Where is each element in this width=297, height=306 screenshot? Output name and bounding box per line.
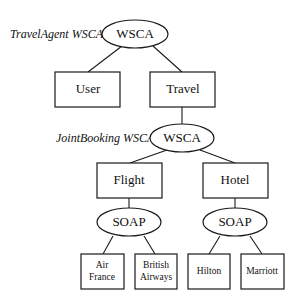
svg-text:SOAP: SOAP — [218, 214, 251, 229]
composition-diagram: TravelAgent WSCA JointBooking WSCA WSCA … — [0, 0, 297, 306]
edge-soap-hilton — [209, 236, 220, 254]
caption-travelagent: TravelAgent WSCA — [10, 27, 104, 41]
node-wsca-mid: WSCA — [150, 124, 214, 152]
svg-text:SOAP: SOAP — [112, 214, 145, 229]
svg-text:Airways: Airways — [140, 272, 172, 282]
edge-wsca-travel — [153, 46, 182, 72]
node-hilton: Hilton — [188, 254, 230, 289]
svg-text:British: British — [143, 260, 169, 270]
node-british-airways: British Airways — [135, 254, 177, 289]
caption-jointbooking: JointBooking WSCA — [56, 131, 155, 145]
svg-text:France: France — [89, 272, 115, 282]
node-soap-hotel: SOAP — [203, 208, 267, 236]
node-user: User — [55, 72, 120, 107]
svg-text:Flight: Flight — [113, 172, 144, 187]
edge-wsca-user — [88, 46, 122, 72]
node-air-france: Air France — [81, 254, 124, 289]
svg-text:Hotel: Hotel — [221, 172, 250, 187]
svg-text:Hilton: Hilton — [197, 266, 222, 276]
svg-text:Air: Air — [96, 260, 110, 270]
edge-soap-british — [144, 236, 155, 254]
node-soap-flight: SOAP — [97, 208, 161, 236]
node-hotel: Hotel — [203, 163, 268, 198]
svg-text:Travel: Travel — [166, 81, 200, 96]
svg-text:User: User — [76, 81, 101, 96]
node-flight: Flight — [97, 163, 162, 198]
node-marriott: Marriott — [241, 254, 284, 289]
svg-text:WSCA: WSCA — [116, 26, 154, 41]
edge-wsca-flight — [130, 150, 167, 163]
svg-text:WSCA: WSCA — [163, 130, 201, 145]
edge-soap-airfrance — [103, 236, 113, 254]
edge-soap-marriott — [250, 236, 262, 254]
node-wsca-top: WSCA — [102, 20, 168, 48]
edge-wsca-hotel — [200, 150, 235, 163]
node-travel: Travel — [150, 72, 215, 107]
svg-text:Marriott: Marriott — [246, 266, 278, 276]
